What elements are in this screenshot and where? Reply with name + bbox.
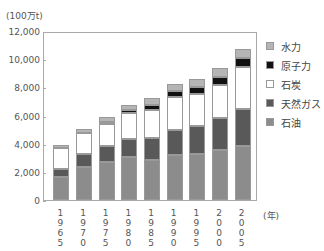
bar-segment	[53, 177, 69, 200]
bar-2005	[235, 49, 251, 200]
y-tick-label: 6,000	[0, 112, 40, 122]
plot-area	[43, 32, 257, 201]
legend-label: 石炭	[281, 77, 301, 92]
x-tick-label: 2000	[214, 208, 224, 248]
y-tick-label: 0	[0, 196, 40, 206]
unit-label: (100万t)	[6, 9, 43, 22]
bar-segment	[121, 113, 137, 139]
legend-label: 天然ガス	[281, 96, 321, 111]
bar-segment	[53, 169, 69, 177]
bar-segment	[99, 146, 115, 162]
x-tick-label: 1970	[78, 208, 88, 248]
bar-segment	[235, 49, 251, 58]
bar-segment	[212, 85, 228, 118]
bar-segment	[99, 162, 115, 200]
bar-segment	[99, 124, 115, 146]
bar-1975	[99, 117, 115, 200]
x-tick-label: 1985	[146, 208, 156, 248]
bar-1995	[189, 79, 205, 200]
bar-segment	[212, 68, 228, 76]
legend-item: 石炭	[266, 76, 321, 92]
y-tick-label: 2,000	[0, 168, 40, 178]
bar-segment	[212, 77, 228, 85]
bar-segment	[189, 126, 205, 154]
bar-1990	[167, 84, 183, 200]
legend-item: 天然ガス	[266, 95, 321, 111]
bar-segment	[235, 67, 251, 109]
legend-swatch-icon	[266, 99, 274, 107]
bar-1980	[121, 105, 137, 200]
x-tick-label: 2005	[237, 208, 247, 248]
legend-swatch-icon	[266, 118, 274, 126]
bar-segment	[144, 138, 160, 160]
y-tick-label: 10,000	[0, 55, 40, 65]
bar-segment	[167, 130, 183, 155]
legend-label: 石油	[281, 115, 301, 130]
y-tick-mark	[43, 201, 46, 202]
legend-item: 水力	[266, 38, 321, 54]
bar-segment	[167, 84, 183, 91]
legend-swatch-icon	[266, 42, 274, 50]
bar-1965	[53, 145, 69, 200]
bar-segment	[189, 79, 205, 87]
legend-item: 原子力	[266, 57, 321, 73]
bar-segment	[167, 97, 183, 130]
x-tick-label: 1980	[123, 208, 133, 248]
y-tick-label: 8,000	[0, 83, 40, 93]
bar-segment	[235, 58, 251, 66]
legend-item: 石油	[266, 114, 321, 130]
y-tick-label: 4,000	[0, 140, 40, 150]
bar-segment	[144, 160, 160, 200]
bar-1970	[76, 129, 92, 200]
legend-label: 原子力	[281, 58, 311, 73]
bar-segment	[53, 148, 69, 169]
bar-segment	[121, 157, 137, 200]
bar-segment	[235, 109, 251, 146]
legend-swatch-icon	[266, 61, 274, 69]
bar-segment	[235, 146, 251, 200]
bar-segment	[167, 155, 183, 200]
x-tick-label: 1975	[101, 208, 111, 248]
bar-segment	[189, 94, 205, 126]
x-tick-label: 1965	[55, 208, 65, 248]
legend: 水力原子力石炭天然ガス石油	[266, 38, 321, 133]
bar-segment	[189, 154, 205, 200]
y-tick-label: 12,000	[0, 27, 40, 37]
bar-2000	[212, 68, 228, 200]
x-tick-label: 1990	[169, 208, 179, 248]
bar-segment	[144, 98, 160, 105]
bar-segment	[76, 133, 92, 154]
bar-segment	[121, 139, 137, 157]
bar-segment	[212, 150, 228, 200]
bar-1985	[144, 98, 160, 200]
bar-segment	[144, 110, 160, 138]
x-axis-unit: (年)	[263, 209, 279, 222]
bar-segment	[189, 87, 205, 95]
bar-segment	[76, 154, 92, 167]
x-tick-label: 1995	[191, 208, 201, 248]
legend-swatch-icon	[266, 80, 274, 88]
legend-label: 水力	[281, 39, 301, 54]
bar-segment	[212, 118, 228, 150]
bar-segment	[76, 167, 92, 200]
